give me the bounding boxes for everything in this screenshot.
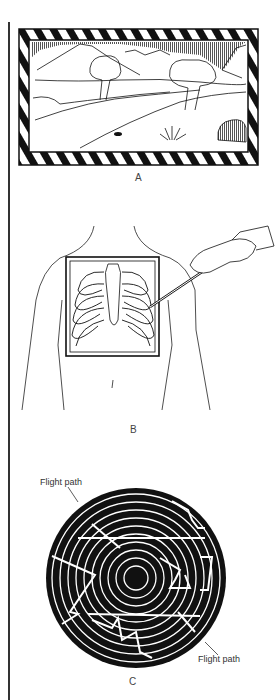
panel-c-label: C [129,676,136,687]
panel-a-landscape-frame [19,29,258,165]
flight-path-label-bottom: Flight path [198,654,240,664]
panel-a-label: A [135,172,142,183]
figure-canvas [0,0,275,700]
panel-b-chest-xray [22,226,274,410]
flight-path-label-top: Flight path [40,477,82,487]
panel-c-target [46,487,226,668]
panel-b-label: B [130,424,137,435]
